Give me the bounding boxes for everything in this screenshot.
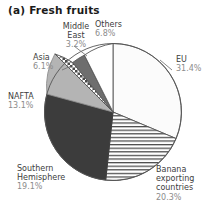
pie-label-eu: EU 31.4%	[176, 55, 201, 73]
pie-label-southern-hemisphere: Southern Hemisphere 19.1%	[17, 164, 65, 192]
chart-container: (a) Fresh fruits	[0, 0, 211, 213]
pie-label-asia: Asia 6.1%	[33, 53, 53, 71]
pie-label-middle-east-name: Middle	[63, 22, 89, 31]
pie-label-middle-east-value: 3.2%	[56, 40, 96, 49]
pie-label-banana-name2: exporting	[156, 174, 194, 183]
pie-label-southern-hemisphere-value: 19.1%	[17, 182, 65, 191]
pie-label-nafta: NAFTA 13.1%	[8, 92, 34, 110]
pie-label-banana-value: 20.3%	[156, 193, 194, 202]
pie-label-banana-name: Banana	[156, 165, 186, 174]
pie-label-eu-value: 31.4%	[176, 64, 201, 73]
pie-label-banana-name3: countries	[156, 183, 193, 192]
pie-label-others: Others 6.8%	[95, 20, 122, 38]
pie-label-asia-name: Asia	[33, 53, 50, 62]
pie-label-eu-name: EU	[176, 55, 187, 64]
pie-label-southern-hemisphere-name: Southern	[17, 164, 53, 173]
pie-label-others-value: 6.8%	[95, 29, 122, 38]
pie-label-nafta-value: 13.1%	[8, 101, 34, 110]
pie-label-middle-east: Middle East 3.2%	[56, 22, 96, 50]
pie-label-asia-value: 6.1%	[33, 62, 53, 71]
pie-label-southern-hemisphere-name2: Hemisphere	[17, 173, 65, 182]
pie-label-nafta-name: NAFTA	[8, 92, 34, 101]
pie-label-middle-east-name2: East	[67, 31, 84, 40]
pie-label-banana-exporting-countries: Banana exporting countries 20.3%	[156, 165, 194, 202]
pie-label-others-name: Others	[95, 20, 122, 29]
